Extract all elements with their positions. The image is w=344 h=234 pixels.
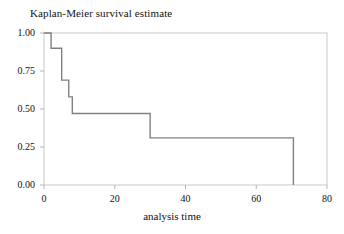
x-tick-label: 0 (29, 193, 59, 204)
y-tick-label: 1.00 (5, 27, 35, 38)
y-tick-label: 0.00 (5, 179, 35, 190)
x-tick-label: 20 (100, 193, 130, 204)
x-tick-label: 40 (171, 193, 201, 204)
axis-tick-marks (40, 33, 327, 189)
y-tick-label: 0.50 (5, 103, 35, 114)
kaplan-meier-chart: Kaplan-Meier survival estimate 0.000.250… (0, 0, 344, 234)
y-tick-label: 0.75 (5, 65, 35, 76)
survival-step-curve (44, 33, 293, 185)
x-axis-title: analysis time (0, 210, 344, 223)
x-tick-label: 80 (312, 193, 342, 204)
y-tick-label: 0.25 (5, 141, 35, 152)
plot-frame (44, 33, 327, 185)
x-tick-label: 60 (241, 193, 271, 204)
